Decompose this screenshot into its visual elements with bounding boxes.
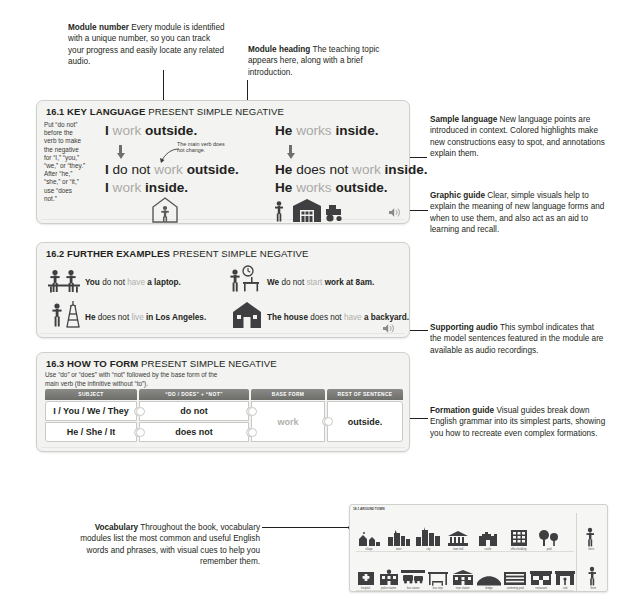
bus-stop-icon bbox=[427, 570, 449, 586]
callout-module-heading-term: Module heading bbox=[248, 45, 310, 54]
speaker-icon[interactable] bbox=[388, 207, 401, 218]
piece-aux-row-1[interactable]: do not bbox=[139, 401, 249, 421]
card-inner-line bbox=[41, 219, 405, 220]
vocab-caption: bus station bbox=[407, 587, 420, 590]
vocab-row-2: hospital police station bbox=[354, 556, 604, 590]
vocab-cell[interactable]: village bbox=[354, 517, 384, 551]
module-key-language-note: Put “do not” before the verb to make the… bbox=[44, 121, 86, 203]
module-how-to-form: 16.3 HOW TO FORM PRESENT SIMPLE NEGATIVE… bbox=[36, 352, 410, 452]
sentence-3: I work inside. bbox=[105, 180, 188, 196]
vocab-caption: city bbox=[426, 548, 430, 551]
sentence-3-part-0: I bbox=[105, 180, 113, 195]
callout-supporting-audio: Supporting audio This symbol indicates t… bbox=[430, 322, 606, 356]
vocab-cell[interactable]: there bbox=[583, 556, 604, 590]
sentence-5: He does not work inside. bbox=[275, 162, 428, 178]
sentence-3-part-1: work bbox=[113, 180, 145, 195]
example-2-part-3: work at 8am. bbox=[325, 278, 375, 287]
vocab-caption: hospital bbox=[361, 587, 370, 590]
page-root: Module number Every module is identified… bbox=[0, 0, 620, 599]
sentence-6-part-2: outside. bbox=[335, 180, 387, 195]
example-2-part-2: start bbox=[306, 278, 324, 287]
eiffel-tower-icon bbox=[49, 299, 83, 331]
notch-aux-row-2 bbox=[136, 428, 145, 437]
module-how-to-form-note: Use “do” or “does” with “not” followed b… bbox=[45, 371, 225, 388]
vocab-cell[interactable]: bus station bbox=[400, 556, 426, 590]
arrow-down-left-icon bbox=[117, 153, 125, 159]
module-subtitle: PRESENT SIMPLE NEGATIVE bbox=[141, 358, 277, 369]
vocabulary-thumbnail-header: 18.1 AROUND TOWN bbox=[353, 507, 385, 511]
callout-graphic-guide: Graphic guide Clear, simple visuals help… bbox=[430, 190, 612, 236]
piece-subject-row-2[interactable]: He / She / It bbox=[45, 422, 137, 442]
module-further-examples-header: 16.2 FURTHER EXAMPLES PRESENT SIMPLE NEG… bbox=[46, 248, 308, 259]
vocab-cell[interactable]: swimming pool bbox=[502, 556, 529, 590]
example-1: You do not have a laptop. bbox=[85, 278, 181, 288]
vocab-cell[interactable]: town hall bbox=[443, 517, 473, 551]
vocab-cell[interactable]: train station bbox=[449, 556, 476, 590]
arrow-down-right-icon bbox=[287, 153, 295, 159]
table-header-do-does-not: “DO / DOES” + “NOT” bbox=[139, 389, 249, 400]
vocab-caption: cafe bbox=[563, 587, 568, 590]
vocab-cell[interactable]: castle bbox=[473, 517, 503, 551]
police-station-icon bbox=[378, 569, 400, 586]
callout-module-number: Module number Every module is identified… bbox=[68, 22, 228, 68]
notch-base-form-top bbox=[248, 407, 257, 416]
module-key-language: 16.1 KEY LANGUAGE PRESENT SIMPLE NEGATIV… bbox=[36, 100, 410, 224]
sentence-6-part-0: He bbox=[275, 180, 296, 195]
vocab-cell[interactable]: town bbox=[384, 517, 414, 551]
card-inner-line bbox=[41, 447, 405, 448]
callout-formation-guide: Formation guide Visual guides break down… bbox=[430, 405, 612, 439]
vocabulary-title: AROUND TOWN bbox=[360, 507, 385, 511]
speaker-icon[interactable] bbox=[382, 323, 395, 334]
notch-rest-of-sentence bbox=[324, 417, 333, 426]
vocab-cell[interactable]: there bbox=[578, 517, 604, 551]
vocab-row-1: village town bbox=[354, 517, 604, 551]
piece-base-form[interactable]: work bbox=[251, 401, 325, 442]
vocab-cell[interactable]: police station bbox=[377, 556, 400, 590]
vocab-cell[interactable]: park bbox=[534, 517, 564, 551]
vocab-row1-rule bbox=[356, 551, 574, 552]
vocab-caption: park bbox=[547, 548, 552, 551]
module-how-to-form-header: 16.3 HOW TO FORM PRESENT SIMPLE NEGATIVE bbox=[46, 358, 277, 369]
vocabulary-thumbnail: 18.1 AROUND TOWN village bbox=[349, 504, 608, 592]
piece-subject-row-1[interactable]: I / You / We / They bbox=[45, 401, 137, 421]
vocab-cell[interactable]: restaurant bbox=[529, 556, 554, 590]
sentence-4: He works inside. bbox=[275, 123, 379, 139]
vocab-cell[interactable]: bridge bbox=[476, 556, 502, 590]
office-building-icon bbox=[509, 529, 529, 547]
card-inner-line bbox=[41, 333, 405, 334]
vocab-caption: town hall bbox=[453, 548, 463, 551]
piece-rest-of-sentence[interactable]: outside. bbox=[327, 401, 403, 442]
piece-aux-row-2[interactable]: does not bbox=[139, 422, 249, 442]
example-1-part-2: have bbox=[127, 278, 147, 287]
sentence-2-part-0: I bbox=[105, 162, 113, 177]
callout-graphic-guide-term: Graphic guide bbox=[430, 191, 485, 200]
vocab-cell[interactable]: city bbox=[414, 517, 444, 551]
vocab-cell[interactable]: office building bbox=[503, 517, 535, 551]
castle-icon bbox=[477, 530, 499, 547]
example-3-part-0: He bbox=[85, 313, 98, 322]
example-4: The house does not have a backyard. bbox=[267, 313, 409, 323]
module-number: 16.3 bbox=[46, 359, 64, 369]
notch-aux-row-1 bbox=[136, 407, 145, 416]
sentence-5-part-1: does not bbox=[296, 162, 352, 177]
vocab-cell[interactable]: cafe bbox=[554, 556, 577, 590]
vocab-cell[interactable]: hospital bbox=[354, 556, 377, 590]
module-title: KEY LANGUAGE bbox=[67, 106, 145, 117]
module-subtitle: PRESENT SIMPLE NEGATIVE bbox=[173, 248, 309, 259]
vocab-caption: train station bbox=[456, 587, 469, 590]
sentence-4-part-2: inside. bbox=[335, 123, 378, 138]
park-icon bbox=[537, 529, 561, 547]
restaurant-icon bbox=[529, 569, 553, 586]
table-header-rest-of-sentence: REST OF SENTENCE bbox=[327, 389, 403, 400]
callout-supporting-audio-term: Supporting audio bbox=[430, 323, 498, 332]
vocab-caption: there bbox=[588, 548, 594, 551]
house-person-icon bbox=[151, 197, 179, 223]
sentence-2-part-1: do not bbox=[113, 162, 155, 177]
table-header-base-form: BASE FORM bbox=[251, 389, 325, 400]
vocab-cell[interactable]: bus stop bbox=[426, 556, 449, 590]
sentence-2: I do not work outside. bbox=[105, 162, 239, 178]
vocab-caption: village bbox=[365, 548, 372, 551]
vocab-caption: town bbox=[396, 548, 401, 551]
sentence-1-part-1: work bbox=[113, 123, 145, 138]
callout-module-number-term: Module number bbox=[68, 23, 129, 32]
